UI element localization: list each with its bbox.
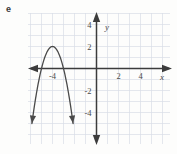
y-axis-letter: y [104,22,109,32]
x-tick-label: 4 [138,71,143,81]
y-axis-arrow-down [93,135,100,145]
x-axis-arrow-left [28,65,38,72]
x-tick-label: -4 [49,71,57,81]
y-tick-label: -4 [84,108,92,118]
y-axis [93,12,100,145]
y-tick-label: 2 [87,42,91,52]
y-tick-label: -2 [84,86,91,96]
figure-panel: e -42442-2-4 y x [0,0,177,154]
x-tick-label: 2 [116,71,120,81]
x-axis-letter: x [159,72,164,82]
coordinate-graph: -42442-2-4 y x [0,0,177,154]
